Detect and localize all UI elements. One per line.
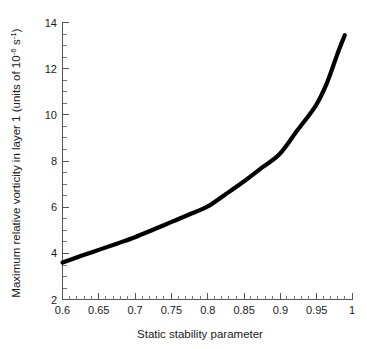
line-chart: 14 12 10 8 6 4 2 0.6 0.65 0.7 0.75 0 [0,0,367,349]
x-tick-label: 0.6 [55,304,70,316]
data-series-line [63,35,345,262]
y-tick-label: 6 [51,201,57,213]
x-tick-label: 0.75 [161,304,182,316]
y-tick-label: 4 [51,247,57,259]
y-axis-tick-labels: 14 12 10 8 6 4 2 [45,17,57,306]
x-tick-label: 1 [349,304,355,316]
x-tick-label: 0.95 [306,304,327,316]
y-axis-title-suffix: ) [10,28,22,32]
x-axis-title: Static stability parameter [137,328,263,340]
chart-figure: 14 12 10 8 6 4 2 0.6 0.65 0.7 0.75 0 [0,0,367,349]
x-axis-tick-labels: 0.6 0.65 0.7 0.75 0.8 0.85 0.9 0.95 1 [55,304,355,316]
y-axis-ticks [63,23,70,300]
x-tick-label: 0.7 [127,304,142,316]
x-tick-label: 0.9 [273,304,288,316]
x-tick-label: 0.85 [233,304,254,316]
x-tick-minor-group [70,296,345,300]
x-tick-label: 0.65 [88,304,109,316]
y-tick-label: 8 [51,155,57,167]
y-axis-title: Maximum relative vorticity in layer 1 (u… [9,28,23,297]
x-axis-ticks [63,293,353,300]
y-tick-label: 14 [45,17,57,29]
y-axis-title-middle: s [10,39,22,48]
y-tick-label: 10 [45,109,57,121]
y-axis-title-prefix: Maximum relative vorticity in layer 1 (u… [10,55,22,297]
y-tick-label: 12 [45,63,57,75]
x-tick-label: 0.8 [200,304,215,316]
